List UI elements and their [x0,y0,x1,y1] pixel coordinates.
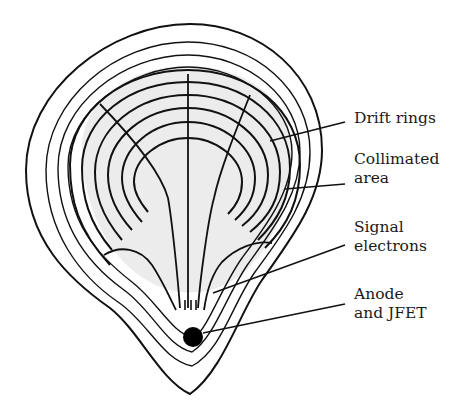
label-signal-electrons: Signal electrons [354,218,427,256]
label-drift-rings: Drift rings [354,109,436,128]
signal-text: Signal [354,218,427,237]
and-jfet-text: and JFET [354,304,427,323]
electrons-text: electrons [354,237,427,256]
anode-jfet-dot [183,327,203,347]
sdd-diagram: Drift rings Collimated area Signal elect… [0,0,470,413]
electron-tips [185,300,196,310]
area-text: area [354,169,439,188]
anode-text: Anode [354,285,427,304]
collimated-text: Collimated [354,150,439,169]
drift-rings-text: Drift rings [354,109,436,128]
label-collimated-area: Collimated area [354,150,439,188]
detector-drawing [0,0,470,413]
label-anode-jfet: Anode and JFET [354,285,427,323]
collimated-area-fill [82,66,292,293]
